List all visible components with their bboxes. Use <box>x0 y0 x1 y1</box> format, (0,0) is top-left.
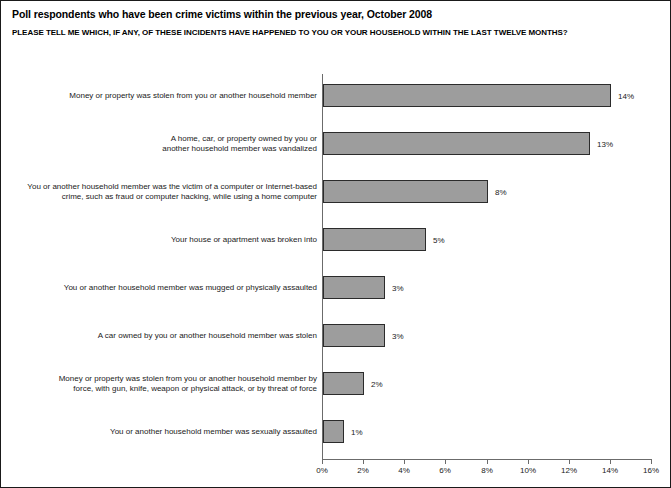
chart-frame: Poll respondents who have been crime vic… <box>0 0 671 488</box>
bar <box>323 180 488 203</box>
category-label-line: force, with gun, knife, weapon or physic… <box>17 384 317 395</box>
x-axis-tick-mark <box>322 459 323 464</box>
bar <box>323 228 426 251</box>
x-axis-tick-label: 0% <box>302 466 342 475</box>
category-label: Your house or apartment was broken into <box>17 234 317 245</box>
x-axis-tick-label: 12% <box>549 466 589 475</box>
x-axis-tick-label: 6% <box>425 466 465 475</box>
x-axis-tick-label: 16% <box>631 466 671 475</box>
category-label: A car owned by you or another household … <box>17 330 317 341</box>
bar <box>323 372 364 395</box>
bar-value-label: 1% <box>351 427 363 436</box>
category-label: You or another household member was sexu… <box>17 426 317 437</box>
category-label-line: another household member was vandalized <box>17 144 317 155</box>
category-label-line: A home, car, or property owned by you or <box>17 133 317 144</box>
x-axis-tick-mark <box>569 459 570 464</box>
bar-value-label: 13% <box>597 139 613 148</box>
title-block: Poll respondents who have been crime vic… <box>12 8 660 38</box>
bar-row: Your house or apartment was broken into5… <box>1 228 671 251</box>
bar <box>323 84 611 107</box>
x-axis-tick-mark <box>487 459 488 464</box>
bar-value-label: 5% <box>433 235 445 244</box>
category-label-line: You or another household member was mugg… <box>17 282 317 293</box>
bar-value-label: 3% <box>392 283 404 292</box>
x-axis-tick-label: 8% <box>467 466 507 475</box>
category-label-line: You or another household member was sexu… <box>17 426 317 437</box>
bar <box>323 132 590 155</box>
bar-row: You or another household member was sexu… <box>1 420 671 443</box>
bar-value-label: 14% <box>618 91 634 100</box>
chart-subtitle: PLEASE TELL ME WHICH, IF ANY, OF THESE I… <box>12 28 660 38</box>
x-axis-tick-label: 4% <box>384 466 424 475</box>
x-axis-tick-mark <box>404 459 405 464</box>
bar <box>323 276 385 299</box>
bar <box>323 324 385 347</box>
x-axis-tick-mark <box>528 459 529 464</box>
bar-row: You or another household member was the … <box>1 180 671 203</box>
category-label: You or another household member was mugg… <box>17 282 317 293</box>
bar-value-label: 8% <box>495 187 507 196</box>
category-label-line: Your house or apartment was broken into <box>17 234 317 245</box>
x-axis-tick-mark <box>363 459 364 464</box>
category-label: Money or property was stolen from you or… <box>17 90 317 101</box>
category-label-line: Money or property was stolen from you or… <box>17 373 317 384</box>
bar-row: Money or property was stolen from you or… <box>1 372 671 395</box>
x-axis-tick-mark <box>610 459 611 464</box>
category-label-line: A car owned by you or another household … <box>17 330 317 341</box>
x-axis-tick-label: 14% <box>590 466 630 475</box>
x-axis-ticks: 0%2%4%6%8%10%12%14%16% <box>1 459 671 488</box>
x-axis-tick-mark <box>445 459 446 464</box>
category-label-line: You or another household member was the … <box>17 181 317 192</box>
category-label-line: crime, such as fraud or computer hacking… <box>17 192 317 203</box>
bar <box>323 420 344 443</box>
category-label-line: Money or property was stolen from you or… <box>17 90 317 101</box>
bar-row: A car owned by you or another household … <box>1 324 671 347</box>
category-label: A home, car, or property owned by you or… <box>17 133 317 154</box>
bar-value-label: 3% <box>392 331 404 340</box>
x-axis-tick-mark <box>651 459 652 464</box>
bar-row: Money or property was stolen from you or… <box>1 84 671 107</box>
bar-row: A home, car, or property owned by you or… <box>1 132 671 155</box>
category-label: Money or property was stolen from you or… <box>17 373 317 394</box>
x-axis-tick-label: 10% <box>508 466 548 475</box>
bar-value-label: 2% <box>371 379 383 388</box>
plot-area: Money or property was stolen from you or… <box>1 69 671 488</box>
page-title: Poll respondents who have been crime vic… <box>12 8 660 21</box>
x-axis-tick-label: 2% <box>343 466 383 475</box>
bar-row: You or another household member was mugg… <box>1 276 671 299</box>
category-label: You or another household member was the … <box>17 181 317 202</box>
